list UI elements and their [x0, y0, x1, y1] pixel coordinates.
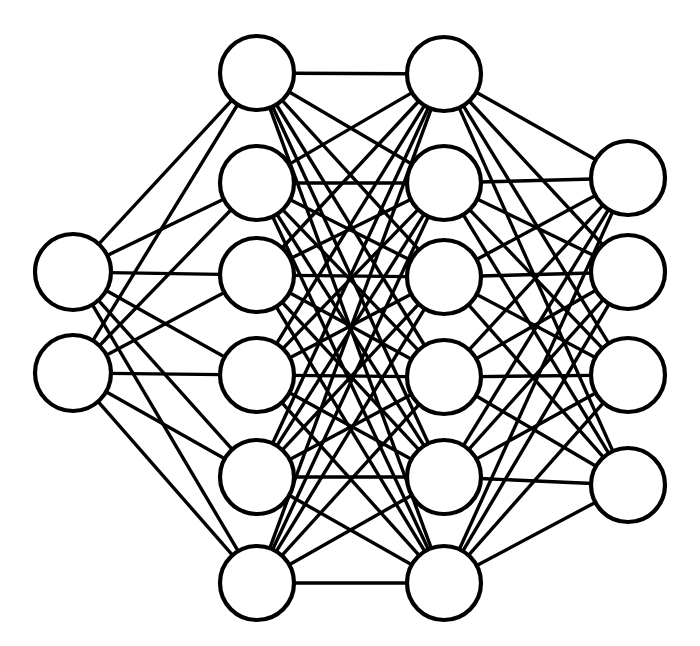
neuron-node-L3N1[interactable]: [591, 235, 665, 309]
neuron-node-L2N0[interactable]: [407, 37, 481, 111]
edge-L0N0-L1N2: [109, 273, 221, 275]
neuron-node-L1N2[interactable]: [220, 238, 294, 312]
neuron-node-L0N1[interactable]: [35, 335, 111, 411]
neuron-node-L1N5[interactable]: [220, 546, 294, 620]
neuron-node-L3N2[interactable]: [591, 338, 665, 412]
edge-L0N1-L1N3: [109, 373, 221, 374]
neuron-node-L1N3[interactable]: [220, 338, 294, 412]
neuron-node-L2N2[interactable]: [407, 240, 481, 314]
neuron-node-L2N3[interactable]: [407, 340, 481, 414]
network-canvas: [0, 0, 700, 646]
edge-L1N0-L2N0: [292, 73, 408, 74]
neuron-node-L3N0[interactable]: [591, 141, 665, 215]
neural-network-diagram: [0, 0, 700, 646]
neuron-node-L1N0[interactable]: [220, 36, 294, 110]
neuron-node-L3N3[interactable]: [591, 448, 665, 522]
neuron-node-L1N4[interactable]: [220, 440, 294, 514]
neuron-node-L1N1[interactable]: [220, 146, 294, 220]
neuron-node-L2N1[interactable]: [407, 146, 481, 220]
neuron-node-L0N0[interactable]: [35, 234, 111, 310]
neuron-node-L2N4[interactable]: [407, 440, 481, 514]
neuron-node-L2N5[interactable]: [407, 546, 481, 620]
